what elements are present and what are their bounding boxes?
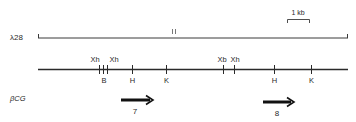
- site-label-k: K: [309, 76, 314, 85]
- gene-arrow-8: 8: [263, 98, 294, 119]
- scale-bar: 1 kb: [288, 9, 310, 23]
- site-label-xh: Xh: [109, 55, 118, 64]
- clone-break-mark: [173, 29, 176, 34]
- scale-label: 1 kb: [291, 9, 304, 16]
- clone-lambda28: λ28: [10, 29, 348, 42]
- site-label-xh: Xh: [90, 55, 99, 64]
- site-label-b: B: [101, 76, 106, 85]
- clone-label: λ28: [10, 33, 23, 42]
- map-label: βCG: [9, 94, 26, 103]
- gene-arrow-7: 7: [121, 96, 153, 117]
- site-label-h: H: [272, 76, 277, 85]
- site-label-xh: Xh: [230, 55, 239, 64]
- gene-label-7: 7: [133, 107, 138, 116]
- gene-label-8: 8: [275, 109, 280, 118]
- site-label-h: H: [130, 76, 135, 85]
- restriction-map-diagram: λ28 1 kb Xh B Xh H K: [0, 0, 356, 122]
- restriction-map: Xh B Xh H K Xb Xh H K: [38, 55, 348, 85]
- site-label-xb: Xb: [217, 55, 226, 64]
- site-label-k: K: [164, 76, 169, 85]
